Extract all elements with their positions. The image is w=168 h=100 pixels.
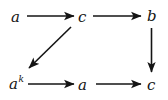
node-bottom-left-label: a — [9, 75, 18, 93]
node-bottom-right: c — [147, 77, 155, 93]
node-top-right: b — [147, 8, 157, 24]
node-bottom-left-exponent: k — [18, 74, 23, 84]
node-top-right-label: b — [147, 7, 157, 25]
node-top-middle: c — [78, 9, 86, 25]
node-bottom-right-label: c — [147, 76, 155, 94]
commutative-diagram: a c b ak a c — [0, 0, 168, 100]
node-bottom-left: ak — [9, 76, 23, 92]
node-top-left: a — [11, 9, 20, 25]
node-bottom-middle: a — [78, 77, 87, 93]
node-top-middle-label: c — [78, 8, 86, 26]
arrow-top-middle-to-bottom-left — [29, 27, 71, 68]
node-bottom-middle-label: a — [78, 76, 87, 94]
node-top-left-label: a — [11, 8, 20, 26]
